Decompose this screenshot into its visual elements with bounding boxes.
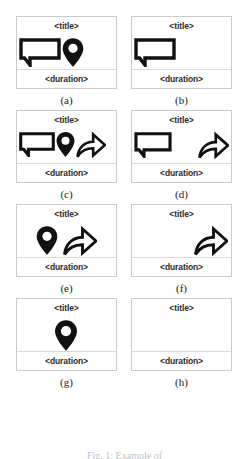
panel-label-d: (d) [131,186,232,202]
variant-panel-b: <title> <duration> (b) [131,16,232,108]
card-duration: <duration> [132,163,231,182]
panel-label-a: (a) [16,92,117,108]
share-arrow-icon [63,225,97,256]
card-icon-row [17,224,116,257]
card-icon-row [132,318,231,351]
variant-panel-g: <title> <duration> (g) [16,298,117,390]
notification-card[interactable]: <title> [16,110,117,183]
panel-label-b: (b) [131,92,232,108]
card-duration: <duration> [132,257,231,276]
panel-label-h: (h) [131,374,232,390]
panel-label-f: (f) [131,280,232,296]
variant-row: <title> <duration> (g) <tit [16,298,233,390]
notification-card[interactable]: <title> [16,16,117,89]
speech-bubble-icon [19,132,55,161]
card-title: <title> [17,17,116,36]
panel-label-e: (e) [16,280,117,296]
variant-row: <title> [16,110,233,202]
notification-card[interactable]: <title> <duration> [16,298,117,371]
card-duration: <duration> [17,163,116,182]
variant-panel-d: <title> < [131,110,232,202]
variant-grid: <title> [16,16,233,392]
card-icon-row [132,130,231,163]
map-pin-icon [35,225,59,256]
share-arrow-icon [194,225,228,256]
variant-row: <title> [16,204,233,296]
card-icon-row [17,130,116,163]
variant-panel-a: <title> [16,16,117,108]
notification-card[interactable]: <title> <duration> [131,204,232,277]
variant-row: <title> [16,16,233,108]
speech-bubble-icon [134,132,172,161]
card-title: <title> [17,205,116,224]
card-icon-row [132,224,231,257]
notification-card[interactable]: <title> < [131,110,232,183]
card-title: <title> [17,111,116,130]
notification-card[interactable]: <title> <duration> [131,298,232,371]
card-title: <title> [132,17,231,36]
notification-variants-figure: <title> [0,0,249,459]
share-arrow-icon [198,131,229,162]
variant-panel-e: <title> [16,204,117,296]
map-pin-icon [55,131,76,162]
card-title: <title> [132,299,231,318]
share-arrow-icon [76,131,106,162]
card-title: <title> [132,205,231,224]
variant-panel-f: <title> <duration> (f) [131,204,232,296]
notification-card[interactable]: <title> <duration> [131,16,232,89]
speech-bubble-icon [19,38,61,67]
card-duration: <duration> [17,69,116,88]
map-pin-icon [61,37,85,68]
card-duration: <duration> [132,69,231,88]
panel-label-g: (g) [16,374,117,390]
card-duration: <duration> [132,351,231,370]
card-icon-row [132,36,231,69]
notification-card[interactable]: <title> [16,204,117,277]
speech-bubble-icon [134,38,176,67]
map-pin-icon [53,319,79,350]
figure-caption: Fig. 1: Example of [0,450,249,459]
card-duration: <duration> [17,257,116,276]
variant-panel-c: <title> [16,110,117,202]
card-title: <title> [132,111,231,130]
card-duration: <duration> [17,351,116,370]
variant-panel-h: <title> <duration> (h) [131,298,232,390]
card-icon-row [17,36,116,69]
card-icon-row [17,318,116,351]
panel-label-c: (c) [16,186,117,202]
card-title: <title> [17,299,116,318]
